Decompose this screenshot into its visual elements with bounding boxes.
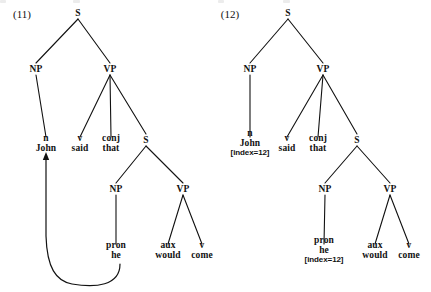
- coreference-arrow-11: [46, 158, 120, 286]
- nonterminal-node-11-np2: NP: [110, 184, 123, 194]
- node-word-label: that: [309, 143, 327, 153]
- nonterminal-node-12-vp1: VP: [317, 64, 330, 74]
- edge-12-vp2-aux_wd: [375, 195, 390, 244]
- node-word-label: would: [155, 250, 180, 260]
- edge-12-s_emb-vp2: [357, 146, 390, 183]
- node-category-label: NP: [110, 184, 123, 194]
- node-category-label: pron: [106, 240, 126, 250]
- terminal-node-11-n_john: nJohn: [36, 133, 56, 154]
- example-number-12: (12): [221, 8, 239, 20]
- nonterminal-node-12-s_emb: S: [354, 135, 359, 145]
- node-category-label: S: [285, 8, 290, 18]
- node-category-label: v: [398, 240, 420, 250]
- edge-11-vp2-v_come: [183, 195, 202, 244]
- node-category-label: S: [75, 8, 80, 18]
- edge-12-vp1-v_said: [287, 75, 323, 137]
- node-word-label: he: [106, 250, 126, 260]
- node-category-label: aux: [155, 240, 180, 250]
- edge-12-vp1-s_emb: [323, 75, 357, 134]
- edge-12-s_emb-np2: [325, 146, 357, 183]
- edge-12-vp2-v_come: [390, 195, 409, 244]
- nonterminal-node-11-np1: NP: [30, 64, 43, 74]
- terminal-node-11-v_said: vsaid: [72, 133, 89, 154]
- node-word-label: would: [362, 250, 387, 260]
- terminal-node-11-v_come: vcome: [191, 240, 213, 261]
- node-category-label: v: [279, 133, 296, 143]
- nonterminal-node-11-s_root: S: [75, 8, 80, 18]
- node-index-annotation: [index=12]: [231, 149, 270, 158]
- node-category-label: pron: [305, 235, 344, 245]
- node-category-label: n: [231, 128, 270, 138]
- nonterminal-node-11-s_emb: S: [143, 135, 148, 145]
- edge-11-np1-n_john: [36, 75, 46, 137]
- node-word-label: come: [191, 250, 213, 260]
- node-word-label: John: [231, 139, 270, 149]
- nonterminal-node-12-vp2: VP: [384, 184, 397, 194]
- nonterminal-node-11-vp1: VP: [104, 64, 117, 74]
- terminal-node-12-c_that: conjthat: [309, 133, 327, 154]
- node-index-annotation: [index=12]: [305, 256, 344, 265]
- terminal-node-11-pron_he: pronhe: [106, 240, 126, 261]
- terminal-node-12-aux_wd: auxwould: [362, 240, 387, 261]
- node-category-label: v: [72, 133, 89, 143]
- terminal-node-11-aux_wd: auxwould: [155, 240, 180, 261]
- edge-11-s_emb-vp2: [146, 146, 183, 183]
- node-category-label: S: [354, 135, 359, 145]
- node-category-label: VP: [104, 64, 117, 74]
- terminal-node-12-v_come: vcome: [398, 240, 420, 261]
- node-category-label: NP: [30, 64, 43, 74]
- edge-11-vp2-aux_wd: [168, 195, 183, 244]
- nonterminal-node-12-s_root: S: [285, 8, 290, 18]
- terminal-node-12-pron_he: pronhe[index=12]: [305, 235, 344, 264]
- edge-11-vp1-s_emb: [110, 75, 146, 134]
- node-category-label: conj: [309, 133, 327, 143]
- terminal-node-12-v_said: vsaid: [279, 133, 296, 154]
- terminal-node-11-c_that: conjthat: [102, 133, 120, 154]
- scan-artifact: [218, 0, 224, 3]
- edge-12-s_root-np1: [250, 19, 288, 63]
- edge-11-s_emb-np2: [116, 146, 146, 183]
- edge-11-s_root-vp1: [78, 19, 110, 63]
- node-word-label: he: [305, 246, 344, 256]
- node-word-label: said: [279, 143, 296, 153]
- scan-artifact: [283, 0, 290, 3]
- node-category-label: conj: [102, 133, 120, 143]
- node-category-label: NP: [244, 64, 257, 74]
- scan-artifact: [73, 0, 80, 3]
- node-category-label: S: [143, 135, 148, 145]
- node-category-label: aux: [362, 240, 387, 250]
- nonterminal-node-12-np2: NP: [319, 184, 332, 194]
- node-category-label: v: [191, 240, 213, 250]
- nonterminal-node-12-np1: NP: [244, 64, 257, 74]
- edge-12-vp1-c_that: [318, 75, 323, 137]
- edge-11-s_root-np1: [36, 19, 78, 63]
- node-category-label: VP: [384, 184, 397, 194]
- node-word-label: said: [72, 143, 89, 153]
- node-category-label: NP: [319, 184, 332, 194]
- node-category-label: VP: [317, 64, 330, 74]
- node-category-label: VP: [177, 184, 190, 194]
- node-category-label: n: [36, 133, 56, 143]
- edge-11-vp1-v_said: [80, 75, 110, 137]
- nonterminal-node-11-vp2: VP: [177, 184, 190, 194]
- node-word-label: John: [36, 143, 56, 153]
- example-number-11: (11): [13, 8, 31, 20]
- edge-11-vp1-c_that: [110, 75, 111, 137]
- edge-12-s_root-vp1: [288, 19, 323, 63]
- node-word-label: come: [398, 250, 420, 260]
- figure-canvas: (11)SNPVPnJohnvsaidconjthatSNPVPpronheau…: [0, 0, 431, 292]
- node-word-label: that: [102, 143, 120, 153]
- scan-artifact: [0, 0, 6, 3]
- terminal-node-12-n_john: nJohn[index=12]: [231, 128, 270, 157]
